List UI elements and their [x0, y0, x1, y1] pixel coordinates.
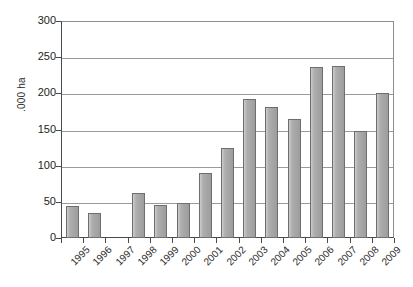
x-tick-label: 2000: [179, 244, 203, 268]
x-tick-mark: [305, 238, 306, 243]
bar: [265, 107, 278, 238]
y-tick-label: 50: [12, 195, 56, 207]
x-tick-mark: [372, 238, 373, 243]
x-tick-mark: [150, 238, 151, 243]
x-tick-mark: [327, 238, 328, 243]
bar: [132, 193, 145, 238]
x-tick-label: 2009: [379, 244, 403, 268]
x-tick-mark: [261, 238, 262, 243]
bar: [376, 93, 389, 238]
x-tick-mark: [128, 238, 129, 243]
x-tick-label: 1996: [91, 244, 115, 268]
x-tick-label: 1999: [157, 244, 181, 268]
bar: [354, 131, 367, 238]
bar: [310, 67, 323, 238]
bar: [88, 213, 101, 238]
bar: [199, 173, 212, 238]
y-tick-label: 200: [12, 86, 56, 98]
x-tick-label: 1995: [68, 244, 92, 268]
x-tick-label: 2006: [313, 244, 337, 268]
x-tick-mark: [394, 238, 395, 243]
x-tick-mark: [83, 238, 84, 243]
bar: [332, 66, 345, 238]
bar: [221, 148, 234, 238]
x-tick-mark: [105, 238, 106, 243]
x-tick-label: 2008: [357, 244, 381, 268]
y-tick-label: 100: [12, 159, 56, 171]
x-tick-mark: [172, 238, 173, 243]
x-tick-label: 2004: [268, 244, 292, 268]
y-tick-label: 0: [12, 231, 56, 243]
x-tick-mark: [61, 238, 62, 243]
y-tick-label: 250: [12, 50, 56, 62]
x-tick-mark: [239, 238, 240, 243]
x-tick-mark: [350, 238, 351, 243]
x-tick-mark: [194, 238, 195, 243]
bar: [243, 99, 256, 238]
x-tick-label: 2002: [224, 244, 248, 268]
y-tick-label: 300: [12, 14, 56, 26]
bar-series: [61, 21, 394, 238]
x-tick-label: 2005: [290, 244, 314, 268]
y-axis-tick-labels: 050100150200250300: [8, 21, 56, 238]
x-axis-tick-labels: 1995199619971998199920002001200220032004…: [61, 244, 394, 287]
bar: [66, 206, 79, 238]
x-tick-mark: [216, 238, 217, 243]
x-tick-label: 2003: [246, 244, 270, 268]
x-tick-mark: [283, 238, 284, 243]
bar-chart: .000 ha 050100150200250300 1995199619971…: [0, 0, 413, 287]
bar: [154, 205, 167, 238]
bar: [288, 119, 301, 238]
y-tick-label: 150: [12, 123, 56, 135]
x-tick-label: 2007: [335, 244, 359, 268]
x-tick-label: 1998: [135, 244, 159, 268]
x-tick-label: 1997: [113, 244, 137, 268]
bar: [177, 203, 190, 238]
x-tick-label: 2001: [202, 244, 226, 268]
